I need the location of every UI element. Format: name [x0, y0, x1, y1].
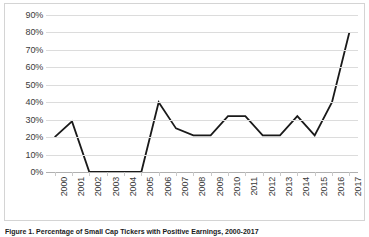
x-axis-tick: [141, 172, 142, 176]
y-axis-label: 30%: [26, 115, 43, 125]
x-axis: 2000200120022003200420052006200720082009…: [46, 177, 358, 221]
y-axis-label: 0%: [30, 167, 43, 177]
y-axis-label: 70%: [26, 45, 43, 55]
x-axis-tick: [72, 172, 73, 176]
gridline: [46, 50, 358, 51]
y-axis-label: 90%: [26, 10, 43, 20]
figure-container: 0%10%20%30%40%50%60%70%80%90% 2000200120…: [0, 0, 369, 237]
x-axis-label: 2016: [336, 177, 346, 196]
gridline: [46, 102, 358, 103]
gridline: [46, 67, 358, 68]
y-axis-label: 20%: [26, 132, 43, 142]
y-axis-label: 80%: [26, 27, 43, 37]
x-axis-tick: [193, 172, 194, 176]
x-axis-tick: [297, 172, 298, 176]
chart-frame: 0%10%20%30%40%50%60%70%80%90% 2000200120…: [4, 3, 365, 221]
gridline: [46, 15, 358, 16]
plot-area: [46, 15, 358, 172]
x-axis-label: 2008: [197, 177, 207, 196]
x-axis-label: 2003: [111, 177, 121, 196]
x-axis-tick: [55, 172, 56, 176]
figure-caption: Figure 1. Percentage of Small Cap Ticker…: [5, 227, 365, 236]
x-axis-label: 2014: [301, 177, 311, 196]
x-axis-label: 2013: [284, 177, 294, 196]
x-axis-label: 2001: [76, 177, 86, 196]
y-axis: 0%10%20%30%40%50%60%70%80%90%: [9, 15, 43, 172]
gridline: [46, 120, 358, 121]
x-axis-label: 2005: [145, 177, 155, 196]
x-axis-tick: [124, 172, 125, 176]
x-axis-tick: [332, 172, 333, 176]
x-axis-tick: [315, 172, 316, 176]
x-axis-label: 2017: [353, 177, 363, 196]
y-axis-label: 60%: [26, 62, 43, 72]
x-axis-tick: [176, 172, 177, 176]
x-axis-tick: [89, 172, 90, 176]
x-axis-tick: [245, 172, 246, 176]
series-line: [46, 15, 358, 172]
x-axis-tick: [211, 172, 212, 176]
x-axis-tick: [107, 172, 108, 176]
x-axis-label: 2011: [249, 177, 259, 196]
y-axis-label: 50%: [26, 80, 43, 90]
x-axis-label: 2015: [319, 177, 329, 196]
x-axis-label: 2010: [232, 177, 242, 196]
x-axis-label: 2006: [163, 177, 173, 196]
x-axis-label: 2012: [267, 177, 277, 196]
gridline: [46, 137, 358, 138]
y-axis-label: 10%: [26, 150, 43, 160]
x-axis-tick: [280, 172, 281, 176]
gridline: [46, 85, 358, 86]
x-axis-tick: [349, 172, 350, 176]
gridline: [46, 155, 358, 156]
x-axis-label: 2004: [128, 177, 138, 196]
x-axis-ticks: [46, 172, 358, 176]
x-axis-tick: [228, 172, 229, 176]
gridline: [46, 32, 358, 33]
x-axis-label: 2000: [59, 177, 69, 196]
x-axis-label: 2009: [215, 177, 225, 196]
x-axis-label: 2007: [180, 177, 190, 196]
x-axis-tick: [263, 172, 264, 176]
x-axis-tick: [159, 172, 160, 176]
y-axis-label: 40%: [26, 97, 43, 107]
x-axis-label: 2002: [93, 177, 103, 196]
